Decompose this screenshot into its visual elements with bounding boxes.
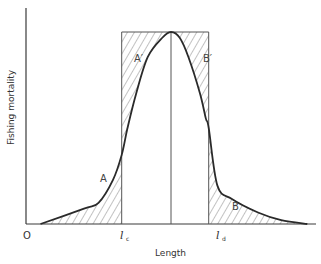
x-axis-label: Length [155,248,186,258]
region-b-label: B [232,201,239,212]
tick-ld-subscript: d [222,235,226,242]
selection-diagram: A A′ B′ B Fishing mortality Length O l c… [0,0,321,264]
region-a-hatch [41,155,122,224]
tick-ld: l d [216,229,226,242]
selection-curve [41,32,308,224]
region-b-prime-hatch [171,32,209,128]
region-b-prime-label: B′ [203,53,213,64]
tick-lc-symbol: l [120,229,124,242]
region-a-prime-label: A′ [134,53,144,64]
tick-lc: l c [120,229,129,242]
region-b-hatch [209,128,308,224]
origin-label: O [23,230,31,241]
region-a-prime-hatch [122,32,171,155]
tick-lc-subscript: c [126,235,129,242]
y-axis-label: Fishing mortality [6,69,16,145]
tick-ld-symbol: l [216,229,220,242]
region-a-label: A [100,173,107,184]
